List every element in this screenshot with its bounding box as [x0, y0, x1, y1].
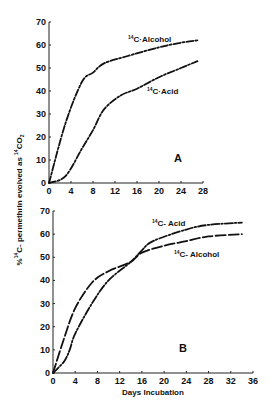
y-tick-label: 40: [36, 86, 46, 96]
series-label: 14C·Acid: [147, 86, 178, 96]
series-label-text: C·Acid: [153, 87, 179, 96]
x-tick-label: 20: [159, 376, 169, 386]
series-label-text: C- Alcohol: [180, 250, 220, 259]
x-axis-label: Days Incubation: [122, 388, 184, 397]
series-label-text: C- Acid: [158, 219, 186, 228]
y-tick-label: 70: [36, 17, 46, 27]
y-tick-label: 30: [40, 299, 50, 309]
x-tick-label: 12: [110, 186, 120, 196]
series-label: 14C- Acid: [152, 218, 185, 228]
y-tick-label: 70: [40, 206, 50, 216]
svg-text:%14C- permethrin evolved as 14: %14C- permethrin evolved as 14CO2: [13, 134, 25, 265]
x-tick-label: 16: [132, 186, 142, 196]
x-tick-label: 0: [46, 186, 51, 196]
x-tick-label: 24: [176, 186, 186, 196]
series-line-second: [49, 61, 198, 183]
x-tick-label: 36: [248, 376, 258, 386]
x-tick-label: 20: [154, 186, 164, 196]
y-axis-label-main: C- permethrin evolved as: [15, 155, 24, 253]
y-tick-label: 30: [36, 109, 46, 119]
y-axis-label-co: CO: [15, 137, 24, 149]
y-tick-label: 0: [41, 178, 46, 188]
y-tick-label: 20: [40, 322, 50, 332]
x-tick-label: 32: [226, 376, 236, 386]
x-tick-label: 0: [50, 376, 55, 386]
series-label: 14C·Alcohol: [128, 34, 171, 44]
y-axis-label-sub: 2: [19, 134, 25, 137]
y-tick-label: 40: [40, 275, 50, 285]
figure: %14C- permethrin evolved as 14CO2 048121…: [0, 0, 271, 413]
x-tick-label: 28: [198, 186, 208, 196]
x-tick-label: 16: [137, 376, 147, 386]
chart-panel-b: 0481216202428323601020304050607014C- Aci…: [40, 206, 258, 386]
y-tick-label: 10: [40, 345, 50, 355]
panel-label: A: [174, 152, 182, 164]
x-tick-label: 12: [115, 376, 125, 386]
x-tick-label: 28: [204, 376, 214, 386]
x-tick-label: 8: [90, 186, 95, 196]
y-axis-label-pct: %: [15, 258, 24, 265]
y-tick-label: 0: [45, 368, 50, 378]
x-tick-label: 4: [68, 186, 73, 196]
y-axis-label: %14C- permethrin evolved as 14CO2: [13, 134, 25, 265]
y-tick-label: 60: [40, 229, 50, 239]
series-label: 14C- Alcohol: [174, 249, 219, 259]
series-label-text: C·Alcohol: [134, 35, 172, 44]
y-tick-label: 50: [40, 252, 50, 262]
y-tick-label: 50: [36, 63, 46, 73]
x-tick-label: 4: [73, 376, 78, 386]
chart-panel-a: 048121620242801020304050607014C·Alcohol1…: [36, 17, 208, 196]
y-tick-label: 20: [36, 132, 46, 142]
x-tick-label: 24: [181, 376, 191, 386]
panel-label: B: [179, 342, 187, 354]
y-tick-label: 10: [36, 155, 46, 165]
y-tick-label: 60: [36, 40, 46, 50]
x-tick-label: 8: [95, 376, 100, 386]
